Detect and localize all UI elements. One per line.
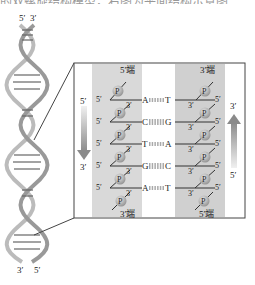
right-3prime: 3′ <box>188 167 194 176</box>
left-5prime: 5′ <box>96 161 102 170</box>
double-helix-icon <box>7 25 48 262</box>
left-strand-top-end: 5′端 <box>120 66 135 75</box>
phosphate-label: P <box>118 197 122 206</box>
phosphate-label: P <box>201 197 205 206</box>
right-5prime: 5′ <box>215 139 221 148</box>
left-5prime: 5′ <box>96 117 102 126</box>
phosphate-label: P <box>117 109 121 118</box>
phosphate-label: P <box>202 131 206 140</box>
base-right: C <box>165 162 171 171</box>
right-5prime: 5′ <box>215 117 221 126</box>
right-direction-top: 3′ <box>230 102 236 111</box>
phosphate-label: P <box>115 87 119 96</box>
base-right: T <box>165 184 171 193</box>
base-right: A <box>165 140 172 149</box>
left-5prime: 5′ <box>96 183 102 192</box>
helix-bottom-3prime: 3′ <box>17 266 23 275</box>
phosphate-label: P <box>202 175 206 184</box>
base-right: T <box>165 96 171 105</box>
left-5prime: 5′ <box>96 139 102 148</box>
right-strand-top-end: 3′端 <box>200 66 215 75</box>
right-direction-bottom: 5′ <box>230 171 236 180</box>
phosphate-label: P <box>202 109 206 118</box>
base-left: C <box>142 118 148 127</box>
right-3prime: 3′ <box>188 123 194 132</box>
base-left: T <box>142 140 148 149</box>
right-5prime: 5′ <box>215 95 221 104</box>
right-5prime: 5′ <box>215 161 221 170</box>
helix-bottom-5prime: 5′ <box>34 266 40 275</box>
left-direction-top: 5′ <box>80 97 86 106</box>
right-3prime: 3′ <box>188 145 194 154</box>
left-3prime: 3′ <box>126 123 132 132</box>
base-left: A <box>142 184 149 193</box>
phosphate-label: P <box>117 131 121 140</box>
right-3prime: 3′ <box>188 101 194 110</box>
left-strand-bottom-end: 3′端 <box>120 210 135 219</box>
right-3prime: 3′ <box>188 189 194 198</box>
base-left: A <box>142 96 149 105</box>
phosphate-label: P <box>202 153 206 162</box>
helix-top-5prime: 5′ <box>19 14 25 23</box>
right-strand-bottom-end: 5′端 <box>199 210 214 219</box>
phosphate-label: P <box>117 153 121 162</box>
left-5prime: 5′ <box>96 95 102 104</box>
right-5prime: 5′ <box>215 183 221 192</box>
base-left: G <box>142 162 149 171</box>
left-3prime: 3′ <box>126 189 132 198</box>
left-3prime: 3′ <box>126 101 132 110</box>
zoom-connector-bottom <box>34 218 74 235</box>
base-right: G <box>165 118 172 127</box>
left-direction-bottom: 3′ <box>80 163 86 172</box>
left-3prime: 3′ <box>126 167 132 176</box>
left-3prime: 3′ <box>126 145 132 154</box>
phosphate-label: P <box>202 87 206 96</box>
phosphate-label: P <box>117 175 121 184</box>
helix-top-3prime: 3′ <box>30 14 36 23</box>
